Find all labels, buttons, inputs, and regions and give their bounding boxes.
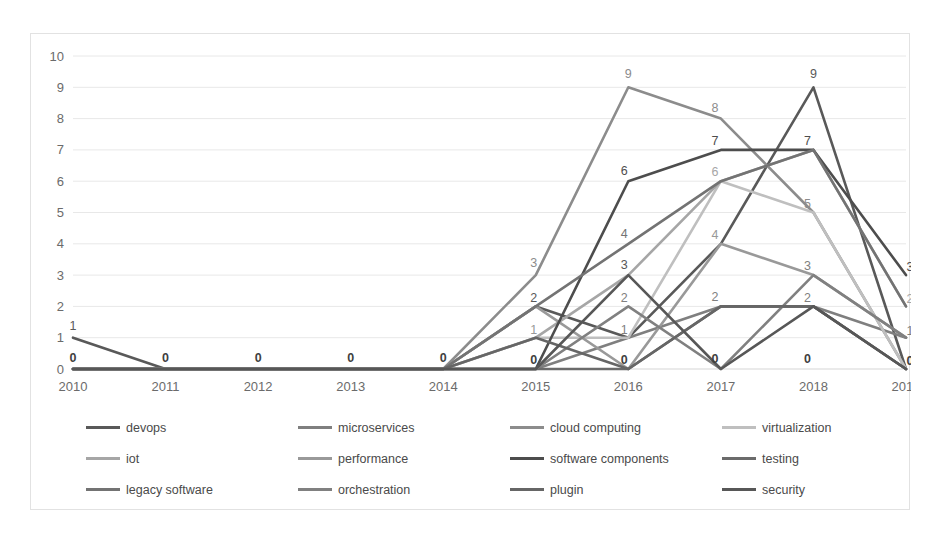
legend-item-performance[interactable]: performance [298,452,510,466]
legend-swatch-icon [86,488,120,491]
legend-swatch-icon [510,426,544,429]
series-line-legacy-software [73,150,906,369]
data-point-label: 4 [711,228,718,242]
x-axis-tick-label: 2016 [614,379,643,394]
legend-item-devops[interactable]: devops [86,421,298,435]
x-axis-ticks: 2010201120122013201420152016201720182019 [59,379,911,394]
x-axis-tick-label: 2013 [336,379,365,394]
y-axis-tick-label: 4 [57,236,64,251]
x-axis-tick-label: 2019 [892,379,911,394]
legend-label: iot [126,452,139,466]
plot-area: 012345678910 100000321096432108764209753… [31,34,911,394]
data-point-label: 2 [621,291,628,305]
legend-swatch-icon [298,488,332,491]
y-axis-ticks: 012345678910 [50,49,64,377]
data-point-label: 0 [621,353,628,367]
legend-item-virtualization[interactable]: virtualization [722,421,902,435]
y-axis-tick-label: 0 [57,362,64,377]
legend-label: orchestration [338,483,410,497]
y-axis-tick-label: 10 [50,49,64,64]
chart-legend: devopsmicroservicescloud computingvirtua… [86,412,896,505]
data-point-label: 5 [804,197,811,211]
data-point-label: 2 [711,290,718,304]
legend-swatch-icon [722,488,756,491]
chart-container: 012345678910 100000321096432108764209753… [30,33,910,510]
data-point-label: 0 [804,352,811,366]
data-point-label: 0 [530,353,537,367]
data-point-label: 0 [70,351,77,365]
line-chart-svg: 012345678910 100000321096432108764209753… [31,34,911,394]
data-point-label: 1 [70,319,77,333]
data-point-label: 3 [804,259,811,273]
legend-item-testing[interactable]: testing [722,452,902,466]
legend-label: plugin [550,483,583,497]
y-axis-tick-label: 2 [57,299,64,314]
y-axis-tick-label: 3 [57,268,64,283]
legend-label: cloud computing [550,421,641,435]
y-axis-tick-label: 1 [57,330,64,345]
data-point-label: 0 [440,351,447,365]
legend-item-microservices[interactable]: microservices [298,421,510,435]
legend-item-security[interactable]: security [722,483,902,497]
y-axis-tick-label: 9 [57,80,64,95]
data-point-label: 1 [621,323,628,337]
y-axis-tick-label: 8 [57,111,64,126]
legend-label: devops [126,421,166,435]
legend-label: microservices [338,421,414,435]
y-axis-tick-label: 7 [57,142,64,157]
legend-swatch-icon [722,457,756,460]
data-point-label: 0 [347,351,354,365]
x-axis-tick-label: 2011 [152,379,180,394]
legend-item-software-components[interactable]: software components [510,452,722,466]
legend-label: software components [550,452,669,466]
legend-label: security [762,483,805,497]
legend-swatch-icon [510,457,544,460]
data-point-label: 4 [621,227,628,241]
x-axis-tick-label: 2018 [799,379,828,394]
x-axis-tick-label: 2012 [244,379,273,394]
data-point-label: 3 [907,260,911,274]
data-point-label: 7 [804,134,811,148]
x-axis-tick-label: 2010 [59,379,88,394]
legend-swatch-icon [86,457,120,460]
data-point-label: 3 [621,258,628,272]
legend-label: performance [338,452,408,466]
legend-swatch-icon [298,426,332,429]
y-axis-tick-label: 5 [57,205,64,220]
y-axis-tick-label: 6 [57,174,64,189]
data-series [73,87,906,369]
legend-item-plugin[interactable]: plugin [510,483,722,497]
data-point-label: 7 [711,134,718,148]
legend-item-legacy-software[interactable]: legacy software [86,483,298,497]
data-point-label: 9 [625,67,632,81]
data-point-label: 1 [907,324,911,338]
data-point-label: 6 [621,164,628,178]
data-point-label: 2 [907,292,911,306]
data-point-label: 2 [804,291,811,305]
legend-label: testing [762,452,799,466]
x-axis-tick-label: 2014 [429,379,458,394]
legend-swatch-icon [510,488,544,491]
data-point-label: 0 [162,351,169,365]
data-point-label: 8 [711,101,718,115]
legend-item-orchestration[interactable]: orchestration [298,483,510,497]
legend-item-iot[interactable]: iot [86,452,298,466]
data-point-label: 9 [810,67,817,81]
legend-swatch-icon [298,457,332,460]
data-point-label: 2 [530,291,537,305]
data-point-label: 1 [530,323,537,337]
data-point-label: 0 [907,354,911,368]
legend-item-cloud-computing[interactable]: cloud computing [510,421,722,435]
data-point-label: 3 [530,256,537,270]
data-point-label: 6 [711,165,718,179]
legend-swatch-icon [722,426,756,429]
x-axis-tick-label: 2017 [706,379,735,394]
data-point-label: 0 [255,351,262,365]
x-axis-tick-label: 2015 [521,379,550,394]
legend-swatch-icon [86,426,120,429]
legend-label: virtualization [762,421,831,435]
legend-label: legacy software [126,483,213,497]
data-point-label: 0 [711,352,718,366]
